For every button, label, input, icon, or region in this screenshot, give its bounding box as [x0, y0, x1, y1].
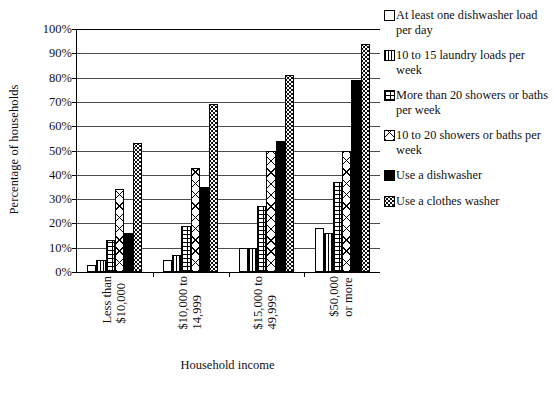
bar [239, 248, 248, 272]
legend-item[interactable]: Use a clothes washer [384, 194, 552, 209]
x-axis-label-line: 49,999 [265, 276, 279, 329]
legend-label: Use a clothes washer [396, 194, 499, 209]
legend-label: At least one dishwasher load per day [396, 8, 548, 37]
y-axis-tick [72, 272, 77, 273]
x-axis-label-line: $15,000 to [251, 276, 265, 329]
y-axis-tick-label: 0% [55, 265, 72, 279]
legend-item[interactable]: More than 20 showers or baths per week [384, 88, 552, 117]
x-axis-tick-labels: Less than$10,000$10,000 to14,999$15,000 … [76, 276, 379, 356]
legend-swatch-vert-icon [384, 50, 395, 61]
bar [106, 240, 115, 272]
y-axis-tick-label: 100% [43, 22, 72, 36]
bar [285, 75, 294, 272]
x-axis-label-line: or more [341, 276, 355, 317]
legend: At least one dishwasher load per day10 t… [384, 8, 552, 219]
bar [248, 248, 257, 272]
legend-label: 10 to 20 showers or baths per week [396, 128, 548, 157]
bar-group [229, 29, 305, 272]
legend-label: Use a dishwasher [396, 168, 482, 183]
legend-item[interactable]: 10 to 20 showers or baths per week [384, 128, 552, 157]
y-axis-tick-label: 90% [49, 46, 72, 60]
legend-item[interactable]: At least one dishwasher load per day [384, 8, 552, 37]
x-axis-label-line: Less than [100, 276, 114, 324]
y-axis-title: Percentage of households [4, 42, 24, 257]
legend-swatch-plain-icon [384, 10, 395, 21]
bar [200, 187, 209, 272]
y-axis-tick-label: 30% [49, 192, 72, 206]
y-axis-tick-label: 80% [49, 71, 72, 85]
x-axis-tick-label: $50,000or more [306, 276, 376, 354]
bar [115, 189, 124, 272]
y-axis-tick-label: 50% [49, 144, 72, 158]
bar [361, 44, 370, 272]
bar-group [304, 29, 380, 272]
y-axis-tick-label: 40% [49, 168, 72, 182]
bar [133, 143, 142, 272]
legend-label: More than 20 showers or baths per week [396, 88, 548, 117]
x-axis-label-line: $10,000 [114, 276, 128, 324]
bar [96, 260, 105, 272]
y-axis-tick-label: 70% [49, 95, 72, 109]
plot-area [76, 29, 380, 273]
legend-item[interactable]: 10 to 15 laundry loads per week [384, 48, 552, 77]
bar [333, 182, 342, 272]
y-axis-tick-labels: 0%10%20%30%40%50%60%70%80%90%100% [26, 22, 72, 278]
legend-swatch-dots-icon [384, 196, 395, 207]
bar [163, 260, 172, 272]
bar [315, 228, 324, 272]
bar [257, 206, 266, 272]
x-axis-title: Household income [76, 358, 379, 373]
bar [87, 265, 96, 272]
bar [172, 255, 181, 272]
legend-swatch-solid-icon [384, 170, 395, 181]
bar [276, 141, 285, 272]
x-axis-label-line: $10,000 to [176, 276, 190, 329]
y-axis-title-text: Percentage of households [7, 84, 22, 214]
legend-item[interactable]: Use a dishwasher [384, 168, 552, 183]
bar-group [77, 29, 153, 272]
x-axis-tick-label: $10,000 to14,999 [155, 276, 225, 354]
bar [342, 151, 351, 273]
y-axis-tick-label: 60% [49, 119, 72, 133]
x-axis-tick-label: $15,000 to49,999 [230, 276, 300, 354]
bar [324, 233, 333, 272]
x-axis-label-line: $50,000 [327, 276, 341, 317]
bar [191, 168, 200, 272]
bar [181, 226, 190, 272]
y-axis-tick-label: 20% [49, 216, 72, 230]
x-axis-tick-label: Less than$10,000 [79, 276, 149, 354]
legend-swatch-brick-icon [384, 90, 395, 101]
x-axis-label-line: 14,999 [190, 276, 204, 329]
bar [351, 80, 360, 272]
bar-chart: Percentage of households 0%10%20%30%40%5… [0, 0, 554, 395]
legend-label: 10 to 15 laundry loads per week [396, 48, 548, 77]
legend-swatch-cross-icon [384, 130, 395, 141]
bar [124, 233, 133, 272]
bar-group [153, 29, 229, 272]
bar [266, 151, 275, 273]
bar [209, 104, 218, 272]
y-axis-tick-label: 10% [49, 241, 72, 255]
